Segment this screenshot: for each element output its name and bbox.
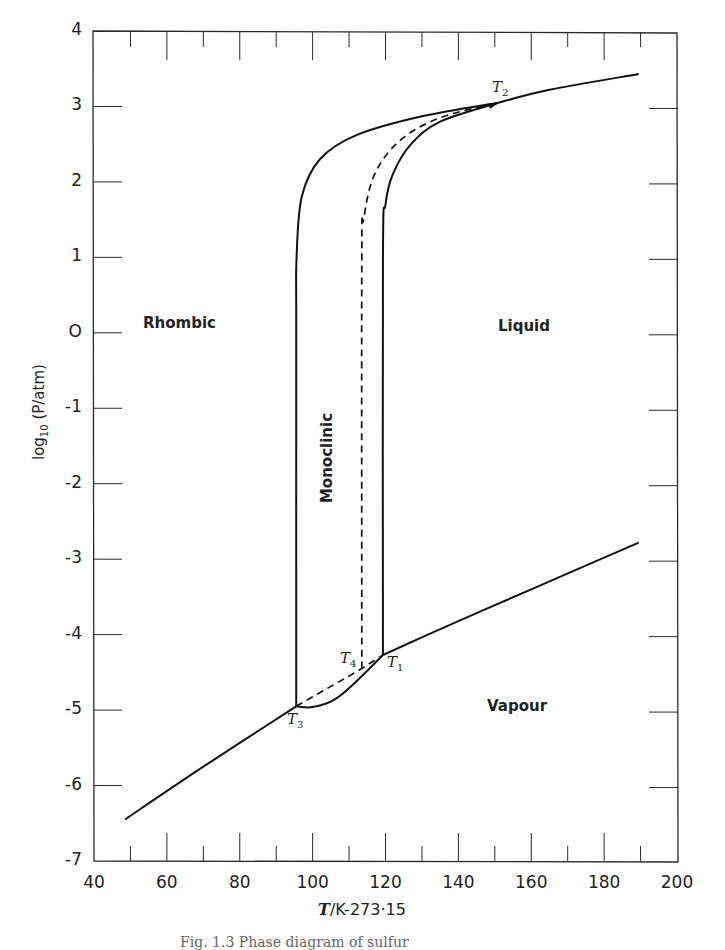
y-tick-label: -2 bbox=[42, 472, 82, 492]
region-label-monoclinic: Monoclinic bbox=[318, 412, 336, 504]
y-tick-label: -6 bbox=[42, 774, 82, 794]
point-label-t1: T1 bbox=[387, 653, 403, 673]
x-tick-label: 160 bbox=[506, 872, 556, 892]
y-axis-title: log10 (P/atm) bbox=[30, 380, 50, 460]
point-label-t2: T2 bbox=[492, 78, 508, 98]
figure-caption: Fig. 1.3 Phase diagram of sulfur bbox=[180, 934, 409, 950]
x-axis-title: T/K-273·15 bbox=[318, 900, 406, 919]
x-tick-label: 140 bbox=[433, 872, 483, 892]
phase-boundary-rhombic-vapour bbox=[125, 706, 296, 819]
y-tick-label: 2 bbox=[42, 170, 82, 190]
x-tick-label: 100 bbox=[288, 872, 338, 892]
region-label-vapour: Vapour bbox=[487, 697, 547, 715]
point-label-t4: T4 bbox=[340, 649, 356, 669]
phase-boundary-liquid-vapour-high- bbox=[498, 74, 638, 103]
x-tick-label: 200 bbox=[652, 872, 702, 892]
y-tick-label: 4 bbox=[42, 19, 82, 39]
x-tick-label: 40 bbox=[69, 872, 119, 892]
phase-boundary-liquid-vapour-low- bbox=[383, 543, 639, 655]
y-tick-label: 3 bbox=[42, 94, 82, 114]
y-tick-label: -7 bbox=[42, 849, 82, 869]
x-tick-label: 120 bbox=[361, 872, 411, 892]
y-tick-label: -4 bbox=[42, 623, 82, 643]
y-tick-label: O bbox=[42, 321, 82, 341]
x-tick-label: 180 bbox=[579, 872, 629, 892]
y-tick-label: 1 bbox=[42, 245, 82, 265]
region-label-liquid: Liquid bbox=[498, 317, 550, 335]
y-tick-label: -3 bbox=[42, 547, 82, 567]
phase-boundary-monoclinic-liquid bbox=[383, 103, 499, 655]
y-tick-label: -5 bbox=[42, 698, 82, 718]
region-label-rhombic: Rhombic bbox=[143, 314, 216, 332]
x-tick-label: 60 bbox=[142, 872, 192, 892]
phase-boundaries bbox=[125, 74, 639, 819]
x-tick-label: 80 bbox=[215, 872, 265, 892]
point-label-t3: T3 bbox=[287, 710, 303, 730]
